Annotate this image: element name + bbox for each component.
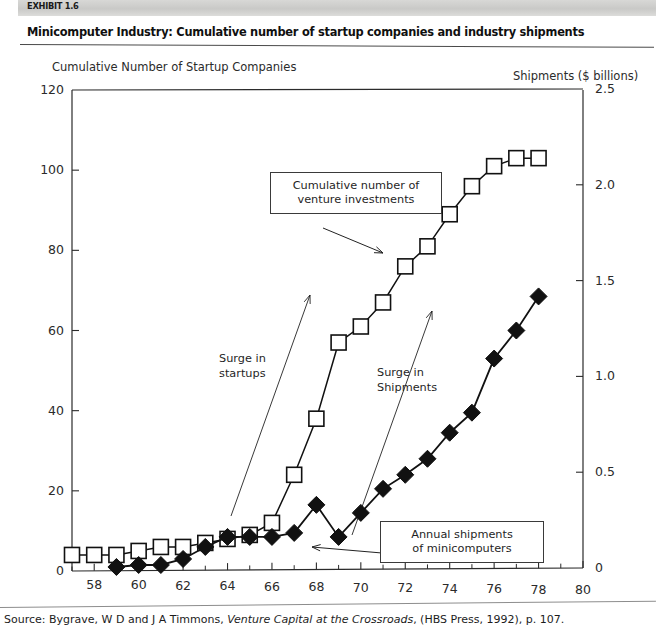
y2-tick-label: 0.5	[595, 464, 615, 479]
arrow-shipments-callout	[312, 547, 382, 553]
data-point-venture-investments	[331, 335, 346, 350]
x-tick-label: 78	[527, 582, 551, 597]
source-suffix: , (HBS Press, 1992), p. 107.	[413, 613, 564, 626]
data-point-venture-investments	[65, 547, 80, 562]
x-tick-label: 62	[171, 578, 195, 593]
y2-tick-label: 0	[595, 560, 603, 575]
note-surge-in-startups: Surge in startups	[219, 352, 266, 381]
data-point-annual-shipments	[530, 288, 547, 305]
y2-axis-title: Shipments ($ billions)	[513, 69, 638, 83]
top-frame-line	[72, 89, 583, 90]
x-tick-label: 66	[260, 579, 284, 594]
x-tick-label: 72	[393, 580, 417, 595]
y-tick-label: 40	[20, 403, 64, 418]
data-point-venture-investments	[442, 207, 457, 222]
data-point-annual-shipments	[486, 350, 503, 367]
y-axis-title: Cumulative Number of Startup Companies	[52, 60, 296, 74]
data-point-venture-investments	[87, 547, 102, 562]
y2-tick-label: 2.5	[595, 81, 615, 96]
data-point-venture-investments	[509, 151, 524, 166]
y2-tick-label: 1.5	[595, 273, 615, 288]
data-point-venture-investments	[376, 295, 391, 310]
x-tick-label: 58	[82, 577, 106, 592]
chart-figure: Cumulative Number of Startup Companies S…	[0, 0, 656, 639]
x-tick-label: 68	[304, 579, 328, 594]
x-tick-label: 60	[127, 577, 151, 592]
data-point-annual-shipments	[508, 322, 525, 339]
chart-series	[65, 151, 548, 576]
data-point-venture-investments	[398, 259, 413, 274]
data-point-venture-investments	[487, 159, 502, 174]
data-point-annual-shipments	[308, 496, 325, 513]
y-tick-label: 100	[20, 162, 64, 177]
y-tick-label: 80	[20, 242, 64, 257]
arrow-venture-callout	[323, 228, 383, 253]
data-point-venture-investments	[531, 151, 546, 166]
source-book-title: Venture Capital at the Crossroads	[227, 613, 413, 626]
data-point-venture-investments	[353, 319, 368, 334]
series-line-venture-investments	[72, 158, 539, 555]
chart-canvas	[0, 0, 656, 639]
x-tick-label: 64	[216, 578, 240, 593]
arrow-surge-shipments	[352, 311, 432, 535]
data-point-venture-investments	[309, 411, 324, 426]
x-tick-label: 76	[482, 581, 506, 596]
source-prefix: Source: Bygrave, W D and J A Timmons,	[4, 613, 227, 626]
data-point-venture-investments	[420, 239, 435, 254]
x-tick-label: 70	[349, 580, 373, 595]
note-surge-in-shipments: Surge in Shipments	[377, 366, 437, 395]
y-tick-label: 20	[20, 483, 64, 498]
y-tick-label: 120	[20, 82, 64, 97]
x-tick-label: 74	[438, 581, 462, 596]
data-point-venture-investments	[153, 539, 168, 554]
data-point-venture-investments	[464, 179, 479, 194]
x-tick-label: 80	[571, 582, 595, 597]
source-citation: Source: Bygrave, W D and J A Timmons, Ve…	[4, 613, 564, 626]
data-point-venture-investments	[287, 467, 302, 482]
y2-tick-label: 1.0	[595, 368, 615, 383]
data-point-annual-shipments	[397, 466, 414, 483]
callout-annual-shipments: Annual shipments of minicomputers	[380, 521, 544, 563]
y-tick-label: 0	[20, 563, 64, 578]
y-tick-label: 60	[20, 323, 64, 338]
data-point-annual-shipments	[286, 524, 303, 541]
callout-venture-investments: Cumulative number of venture investments	[270, 172, 442, 214]
x-axis-line	[72, 568, 583, 571]
y2-tick-label: 2.0	[595, 177, 615, 192]
